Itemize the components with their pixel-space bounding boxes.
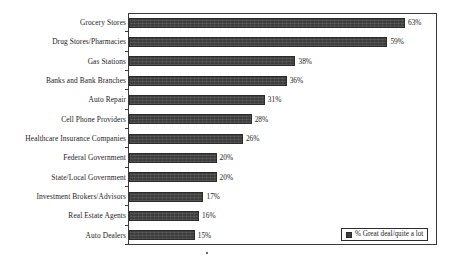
bar-value-label: 31% [268, 96, 282, 103]
bar-with-label: 17% [129, 192, 220, 202]
bar-with-label: 20% [129, 172, 233, 182]
category-label: Auto Dealers [0, 232, 126, 239]
bar-with-label: 36% [129, 76, 303, 86]
axis-tick-marker [206, 252, 208, 254]
axis-tick [125, 244, 129, 245]
bar-with-label: 38% [129, 56, 312, 66]
bar [129, 172, 217, 182]
category-label: Healthcare Insurance Companies [0, 135, 126, 142]
bar-value-label: 28% [255, 116, 269, 123]
bar-with-label: 28% [129, 114, 268, 124]
chart-legend: % Great deal/quite a lot [341, 228, 428, 241]
bar-with-label: 59% [129, 37, 404, 47]
bar [129, 153, 217, 163]
category-label: Gas Stations [0, 58, 126, 65]
bar [129, 37, 387, 47]
bar [129, 211, 199, 221]
bar-with-label: 15% [129, 230, 211, 240]
bar [129, 114, 252, 124]
bar-row: Auto Repair31% [0, 90, 453, 109]
bar-value-label: 17% [206, 193, 220, 200]
bar-rows-container: Grocery Stores63%Drug Stores/Pharmacies5… [0, 13, 453, 245]
bar [129, 230, 195, 240]
bar-row: Healthcare Insurance Companies26% [0, 129, 453, 148]
bar-value-label: 36% [290, 77, 304, 84]
bar [129, 76, 287, 86]
bar-value-label: 26% [246, 135, 260, 142]
category-label: State/Local Government [0, 174, 126, 181]
bar-value-label: 16% [202, 212, 216, 219]
bar [129, 192, 203, 202]
bar [129, 56, 295, 66]
horizontal-bar-chart: Grocery Stores63%Drug Stores/Pharmacies5… [0, 0, 453, 265]
bar-row: Grocery Stores63% [0, 13, 453, 32]
category-label: Drug Stores/Pharmacies [0, 38, 126, 45]
category-label: Grocery Stores [0, 19, 126, 26]
bar-row: State/Local Government20% [0, 168, 453, 187]
bar-row: Investment Brokers/Advisors17% [0, 187, 453, 206]
bar-row: Banks and Bank Branches36% [0, 71, 453, 90]
bar-with-label: 16% [129, 211, 216, 221]
bar-value-label: 38% [298, 58, 312, 65]
category-label: Cell Phone Providers [0, 116, 126, 123]
bar-row: Federal Government20% [0, 148, 453, 167]
category-label: Investment Brokers/Advisors [0, 193, 126, 200]
bar-value-label: 59% [390, 38, 404, 45]
bar-value-label: 63% [408, 19, 422, 26]
bar-value-label: 15% [198, 232, 212, 239]
bar-with-label: 20% [129, 153, 233, 163]
bar-row: Gas Stations38% [0, 52, 453, 71]
bar-with-label: 26% [129, 134, 259, 144]
category-label: Auto Repair [0, 96, 126, 103]
legend-label: % Great deal/quite a lot [355, 231, 423, 238]
category-label: Real Estate Agents [0, 212, 126, 219]
bar-value-label: 20% [220, 174, 234, 181]
bar-row: Cell Phone Providers28% [0, 110, 453, 129]
category-label: Banks and Bank Branches [0, 77, 126, 84]
category-label: Federal Government [0, 154, 126, 161]
bar [129, 95, 265, 105]
bar-value-label: 20% [220, 154, 234, 161]
bar [129, 18, 405, 28]
bar-with-label: 63% [129, 18, 422, 28]
bar-row: Real Estate Agents16% [0, 206, 453, 225]
legend-swatch-icon [346, 232, 352, 238]
bar-with-label: 31% [129, 95, 281, 105]
bar-row: Drug Stores/Pharmacies59% [0, 32, 453, 51]
bar [129, 134, 243, 144]
